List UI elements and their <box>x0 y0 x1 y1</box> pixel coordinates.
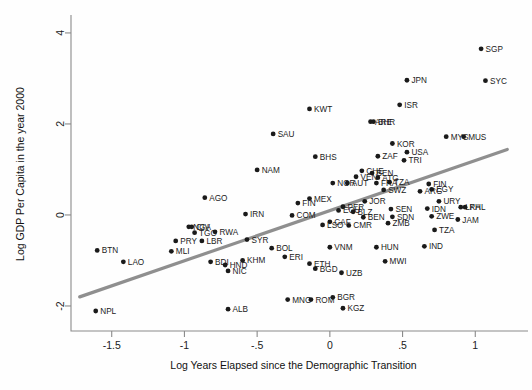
data-point-label: ERI <box>289 253 303 262</box>
data-point-marker <box>313 154 318 159</box>
y-tick-label: 0 <box>54 212 66 218</box>
data-point-label: MWI <box>390 257 407 266</box>
data-point-marker <box>189 224 194 229</box>
scatter-plot-figure: 420-2-1.5-1-.50.51 SGPSYCJPNISRKWTAREBHR… <box>0 0 532 390</box>
data-point-marker <box>255 168 260 173</box>
data-point-marker <box>121 259 126 264</box>
data-point-marker <box>371 119 376 124</box>
x-tick-label: 0 <box>327 339 333 351</box>
data-point-marker <box>463 205 468 210</box>
data-point-marker <box>307 261 312 266</box>
data-point-marker <box>346 223 351 228</box>
data-point-label: ISR <box>404 101 418 110</box>
data-point-marker <box>381 188 386 193</box>
data-point-label: MUS <box>468 133 487 142</box>
data-points-group: SGPSYCJPNISRKWTAREBHRSAUKORMYSMUSUSATRIB… <box>93 45 507 316</box>
data-point-label: BHR <box>378 118 395 127</box>
data-point-marker <box>269 246 274 251</box>
data-point-marker <box>213 229 218 234</box>
data-point-marker <box>243 212 248 217</box>
data-point-label: NPL <box>100 307 116 316</box>
x-axis-title: Log Years Elapsed since the Demographic … <box>170 359 416 371</box>
data-point-label: MLI <box>176 247 190 256</box>
data-point-marker <box>307 107 312 112</box>
data-point-label: UZB <box>346 269 363 278</box>
x-tick-label: -1 <box>180 339 189 351</box>
data-point-label: MYS <box>451 133 469 142</box>
data-point-label: TRI <box>409 156 422 165</box>
data-point-label: KOR <box>397 140 415 149</box>
data-point-label: ZAF <box>382 152 397 161</box>
data-point-marker <box>374 245 379 250</box>
x-tick-label: -.5 <box>251 339 263 351</box>
data-point-marker <box>339 270 344 275</box>
data-point-label: AUT <box>352 179 368 188</box>
data-point-marker <box>397 102 402 107</box>
data-point-label: SGP <box>486 45 504 54</box>
data-point-label: VNM <box>334 243 352 252</box>
data-point-marker <box>432 228 437 233</box>
data-point-label: KHM <box>247 256 265 265</box>
data-point-marker <box>383 259 388 264</box>
data-point-marker <box>330 181 335 186</box>
data-point-marker <box>426 182 431 187</box>
data-point-marker <box>290 213 295 218</box>
data-point-marker <box>361 215 366 220</box>
data-point-marker <box>271 132 276 137</box>
data-point-marker <box>437 199 442 204</box>
data-point-marker <box>226 269 231 274</box>
fit-line-group <box>80 149 508 296</box>
data-point-marker <box>389 207 394 212</box>
data-point-label: NAM <box>262 166 280 175</box>
data-point-label: JOR <box>369 197 385 206</box>
data-point-marker <box>226 307 231 312</box>
data-point-marker <box>245 237 250 242</box>
data-point-marker <box>336 208 341 213</box>
x-tick-label: -1.5 <box>103 339 121 351</box>
data-point-label: AGO <box>209 194 227 203</box>
data-point-marker <box>169 249 174 254</box>
data-point-marker <box>330 295 335 300</box>
data-point-marker <box>418 189 423 194</box>
y-tick-label: -2 <box>54 301 66 310</box>
data-point-label: SWZ <box>388 186 406 195</box>
data-point-label: KGZ <box>347 304 364 313</box>
data-point-marker <box>387 180 392 185</box>
data-point-marker <box>295 201 300 206</box>
data-point-marker <box>386 221 391 226</box>
data-point-marker <box>405 150 410 155</box>
data-point-label: CMR <box>353 221 372 230</box>
data-point-label: JPN <box>411 76 427 85</box>
data-point-marker <box>375 175 380 180</box>
data-point-label: LAO <box>128 258 144 267</box>
data-point-marker <box>282 254 287 259</box>
data-point-label: NIC <box>233 267 247 276</box>
data-point-label: SAU <box>278 130 295 139</box>
data-point-label: BHS <box>320 153 337 162</box>
data-point-marker <box>202 195 207 200</box>
data-point-marker <box>208 259 213 264</box>
scatter-plot-canvas: 420-2-1.5-1-.50.51 SGPSYCJPNISRKWTAREBHR… <box>0 0 532 390</box>
y-tick-label: 4 <box>54 30 66 36</box>
data-point-marker <box>313 266 318 271</box>
data-point-marker <box>95 248 100 253</box>
x-tick-label: .5 <box>398 339 407 351</box>
data-point-marker <box>327 245 332 250</box>
data-point-marker <box>458 205 463 210</box>
data-point-marker <box>351 209 356 214</box>
data-point-label: SYR <box>251 236 268 245</box>
data-point-label: TZA <box>439 226 455 235</box>
data-point-label: PRY <box>180 237 197 246</box>
data-point-label: BTN <box>102 246 118 255</box>
data-point-label: LSO <box>327 221 343 230</box>
data-point-marker <box>345 181 350 186</box>
axes-group: 420-2-1.5-1-.50.51 <box>54 15 528 351</box>
y-tick-label: 2 <box>54 121 66 127</box>
data-point-marker <box>192 230 197 235</box>
data-point-marker <box>309 297 314 302</box>
data-point-label: JAM <box>462 216 479 225</box>
data-point-marker <box>341 306 346 311</box>
data-point-label: MEX <box>314 195 332 204</box>
data-point-label: MNG <box>292 296 311 305</box>
x-tick-label: 1 <box>472 339 478 351</box>
